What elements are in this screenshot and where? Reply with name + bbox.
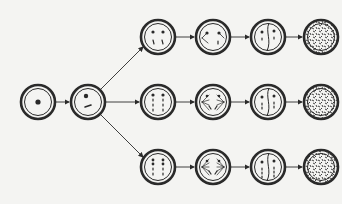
cell-branch (71, 85, 105, 119)
cell-top-chromosomes (141, 20, 175, 54)
arrow-icon (100, 114, 143, 157)
cell-top-division (251, 20, 285, 54)
cell-top-spindle (196, 20, 230, 54)
cell-middle-chromosomes (141, 85, 175, 119)
cell-bottom-division (251, 150, 285, 184)
arrow-icon (100, 47, 143, 90)
diagram-canvas (0, 0, 342, 204)
cell-bottom-dispersed (304, 150, 338, 184)
cell-bottom-chromosomes (141, 150, 175, 184)
cell-initial (21, 85, 55, 119)
cell-top-dispersed (304, 20, 338, 54)
cell-bottom-spindle (196, 150, 230, 184)
cell-division-diagram (0, 0, 342, 204)
cell-middle-spindle (196, 85, 230, 119)
cell-middle-division (251, 85, 285, 119)
cell-middle-dispersed (304, 85, 338, 119)
